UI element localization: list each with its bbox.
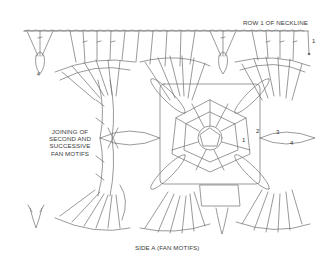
neckline-row-number: 1	[312, 38, 315, 44]
neckline-stitches	[27, 31, 297, 66]
motif-round-3: 3	[276, 129, 279, 135]
left-edge-round-number: 4	[37, 71, 40, 77]
motif-round-4: 4	[290, 140, 293, 146]
motif-round-1: 1	[242, 137, 245, 143]
joining-label-line-1: JOINING OF	[40, 128, 100, 135]
fan-motifs-top	[55, 56, 310, 100]
square-motif	[100, 75, 315, 192]
joining-label-line-4: FAN MOTIFS	[40, 150, 100, 157]
joining-label-line-3: SUCCESSIVE	[40, 142, 100, 149]
joining-label: JOINING OF SECOND AND SUCCESSIVE FAN MOT…	[40, 128, 100, 157]
side-a-label: SIDE A (FAN MOTIFS)	[135, 244, 199, 251]
motif-round-2: 2	[256, 128, 259, 134]
neckline-row-label: ROW 1 OF NECKLINE	[243, 19, 308, 26]
fan-motifs-bottom	[55, 185, 310, 233]
joining-label-line-2: SECOND AND	[40, 135, 100, 142]
